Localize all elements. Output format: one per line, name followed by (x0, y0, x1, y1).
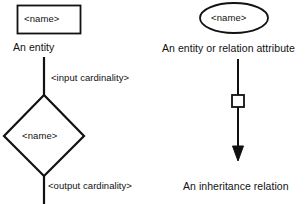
diagram-vector-layer (0, 0, 308, 204)
entity-caption: An entity (13, 42, 54, 53)
inheritance-caption: An inheritance relation (183, 181, 289, 192)
output-cardinality-label: <output cardinality> (48, 181, 132, 191)
attribute-caption: An entity or relation attribute (162, 43, 295, 54)
inheritance-arrowhead-icon (233, 146, 244, 161)
entity-shape-label: <name> (24, 14, 59, 24)
inheritance-square-marker (232, 95, 244, 107)
relation-shape-label: <name> (22, 131, 57, 141)
er-notation-legend-diagram: <name> An entity <name> An entity or rel… (0, 0, 308, 204)
attribute-shape-label: <name> (211, 13, 246, 23)
input-cardinality-label: <input cardinality> (51, 73, 129, 83)
